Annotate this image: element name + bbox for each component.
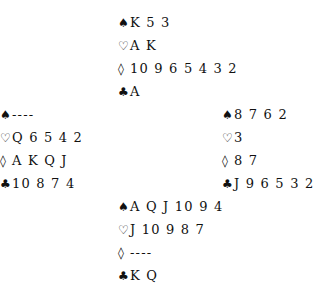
- north-clubs-row: ♣A: [118, 80, 238, 103]
- club-icon: ♣: [118, 265, 129, 288]
- west-diamonds-cards: A K Q J: [12, 153, 68, 168]
- west-diamonds-row: ◊A K Q J: [0, 149, 83, 172]
- south-hearts-cards: J 10 9 8 7: [130, 222, 205, 237]
- diamond-icon: ◊: [118, 242, 129, 265]
- east-hand: ♠8 7 6 2 ♡3 ◊8 7 ♣J 9 6 5 3 2: [222, 103, 314, 195]
- west-clubs-cards: 10 8 7 4: [12, 176, 75, 191]
- club-icon: ♣: [222, 173, 233, 196]
- south-diamonds-cards: ----: [130, 245, 152, 260]
- east-diamonds-cards: 8 7: [234, 153, 258, 168]
- east-diamonds-row: ◊8 7: [222, 149, 314, 172]
- spade-icon: ♠: [118, 196, 129, 219]
- heart-icon: ♡: [118, 219, 129, 242]
- south-hearts-row: ♡J 10 9 8 7: [118, 218, 223, 241]
- east-spades-cards: 8 7 6 2: [234, 107, 288, 122]
- north-spades-row: ♠K 5 3: [118, 11, 238, 34]
- north-diamonds-cards: 10 9 6 5 4 3 2: [130, 61, 238, 76]
- south-spades-row: ♠A Q J 10 9 4: [118, 195, 223, 218]
- diamond-icon: ◊: [222, 150, 233, 173]
- south-diamonds-row: ◊----: [118, 241, 223, 264]
- west-hand: ♠---- ♡Q 6 5 4 2 ◊A K Q J ♣10 8 7 4: [0, 103, 83, 195]
- south-clubs-row: ♣K Q: [118, 264, 223, 287]
- north-diamonds-row: ◊10 9 6 5 4 3 2: [118, 57, 238, 80]
- south-clubs-cards: K Q: [130, 268, 158, 283]
- north-hearts-row: ♡A K: [118, 34, 238, 57]
- west-hearts-cards: Q 6 5 4 2: [12, 130, 83, 145]
- north-clubs-cards: A: [130, 84, 141, 99]
- north-hearts-cards: A K: [130, 38, 157, 53]
- west-hearts-row: ♡Q 6 5 4 2: [0, 126, 83, 149]
- west-spades-row: ♠----: [0, 103, 83, 126]
- west-clubs-row: ♣10 8 7 4: [0, 172, 83, 195]
- west-spades-cards: ----: [12, 107, 34, 122]
- spade-icon: ♠: [0, 104, 11, 127]
- heart-icon: ♡: [222, 127, 233, 150]
- north-spades-cards: K 5 3: [130, 15, 171, 30]
- south-hand: ♠A Q J 10 9 4 ♡J 10 9 8 7 ◊---- ♣K Q: [118, 195, 223, 287]
- north-hand: ♠K 5 3 ♡A K ◊10 9 6 5 4 3 2 ♣A: [118, 11, 238, 103]
- club-icon: ♣: [0, 173, 11, 196]
- east-spades-row: ♠8 7 6 2: [222, 103, 314, 126]
- heart-icon: ♡: [0, 127, 11, 150]
- diamond-icon: ◊: [0, 150, 11, 173]
- east-hearts-cards: 3: [234, 130, 243, 145]
- club-icon: ♣: [118, 81, 129, 104]
- south-spades-cards: A Q J 10 9 4: [130, 199, 223, 214]
- east-clubs-row: ♣J 9 6 5 3 2: [222, 172, 314, 195]
- heart-icon: ♡: [118, 35, 129, 58]
- east-clubs-cards: J 9 6 5 3 2: [234, 176, 314, 191]
- east-hearts-row: ♡3: [222, 126, 314, 149]
- spade-icon: ♠: [222, 104, 233, 127]
- spade-icon: ♠: [118, 12, 129, 35]
- diamond-icon: ◊: [118, 58, 129, 81]
